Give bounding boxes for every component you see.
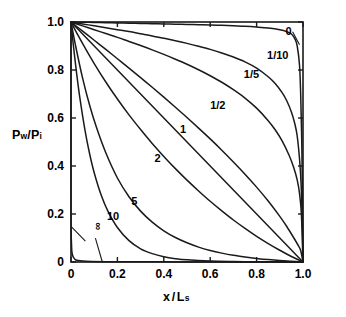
figure-container: 00.20.40.60.81.000.20.40.60.81.001/101/5…: [0, 0, 346, 317]
x-axis-title-l: L: [177, 290, 185, 304]
curve-label-infinity: ∞: [92, 222, 103, 230]
leader-line-infinity: [95, 238, 102, 262]
curve-label-10: 10: [107, 211, 119, 222]
curve-label-1-over-10: 1/10: [267, 50, 288, 61]
x-axis-title-sub-s: s: [185, 293, 190, 303]
y-axis-title: Pw/Pi: [12, 129, 42, 142]
curve-label-1-over-2: 1/2: [210, 100, 225, 111]
y-tick-label-0.2: 0.2: [33, 208, 64, 220]
x-tick-label-0.4: 0.4: [153, 268, 174, 280]
y-tick-label-1.0: 1.0: [33, 16, 64, 28]
x-axis-title: x/Ls: [163, 291, 190, 304]
y-tick-label-0.4: 0.4: [33, 160, 64, 172]
curve-label-1: 1: [180, 124, 186, 135]
y-axis-title-p1: P: [12, 128, 21, 142]
y-axis-title-sub-i: i: [40, 131, 43, 141]
y-tick-label-0: 0: [33, 256, 64, 268]
x-tick-label-0.6: 0.6: [200, 268, 221, 280]
y-tick-label-0.6: 0.6: [33, 112, 64, 124]
x-tick-label-1.0: 1.0: [293, 268, 314, 280]
curve-label-0: 0: [286, 26, 292, 37]
annotation-leaders: [71, 32, 300, 262]
x-tick-label-0.2: 0.2: [107, 268, 128, 280]
curve-label-2: 2: [155, 153, 161, 164]
curve-label-1-over-5: 1/5: [244, 69, 259, 80]
x-tick-label-0: 0: [68, 268, 75, 280]
y-axis-title-p2: P: [31, 128, 40, 142]
x-axis-title-slash: /: [170, 290, 177, 304]
y-tick-label-0.8: 0.8: [33, 64, 64, 76]
curve-label-5: 5: [131, 196, 137, 207]
x-tick-label-0.8: 0.8: [246, 268, 267, 280]
leader-line-infinity-upper: [71, 226, 85, 241]
